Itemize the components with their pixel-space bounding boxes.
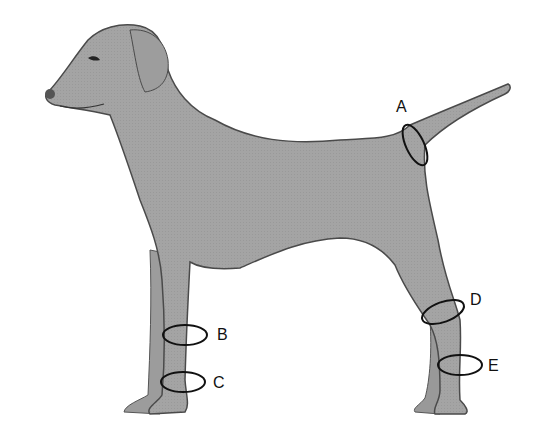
nose [45, 89, 55, 99]
label-c: C [213, 375, 225, 391]
label-b: B [217, 327, 228, 343]
dog-body [46, 25, 510, 414]
label-a: A [396, 99, 407, 115]
dog-measurement-diagram: A B C D E [0, 0, 538, 448]
dog-illustration [0, 0, 538, 448]
label-e: E [488, 358, 499, 374]
label-d: D [470, 292, 482, 308]
